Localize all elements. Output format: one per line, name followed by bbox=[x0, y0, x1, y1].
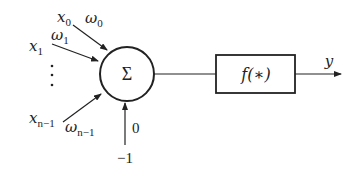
activation-label: f(∗) bbox=[240, 65, 270, 84]
ellipsis-dot bbox=[51, 65, 54, 68]
input-label-x1: x1 bbox=[29, 37, 43, 57]
threshold-value-label: 0 bbox=[132, 120, 140, 136]
input-label-xn-1: xn−1 bbox=[29, 109, 55, 129]
weight-label-wn-1: ωn−1 bbox=[65, 118, 94, 138]
weight-label-w0: ω0 bbox=[85, 9, 103, 29]
threshold-input-label: −1 bbox=[117, 150, 133, 166]
input-label-x0: x0 bbox=[57, 8, 71, 28]
ellipsis-dot bbox=[51, 84, 54, 87]
ellipsis-dot bbox=[51, 74, 54, 77]
input-arrow-1 bbox=[52, 44, 98, 61]
output-label: y bbox=[324, 52, 334, 70]
neuron-diagram: Σ f(∗) y x0 ω0 ω1 x1 xn−1 ωn−1 0 −1 bbox=[0, 0, 353, 172]
summation-symbol: Σ bbox=[122, 64, 132, 84]
weight-label-w1: ω1 bbox=[51, 26, 69, 46]
